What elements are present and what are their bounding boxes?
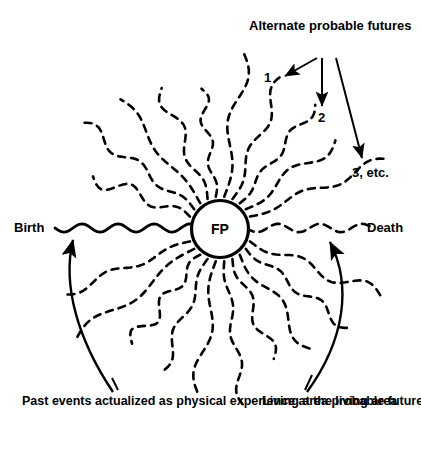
focus-point-label: FP	[191, 200, 249, 258]
arrow-to-future-3	[336, 58, 362, 158]
probable-future-ray	[82, 123, 195, 210]
diagram-canvas: Alternate probable futures 1 2 3, etc. B…	[0, 0, 421, 465]
probable-future-ray	[62, 241, 189, 294]
probable-future-ray	[232, 259, 276, 359]
death-future-line	[247, 224, 371, 232]
label-death: Death	[367, 220, 403, 235]
arrow-to-future-1	[285, 58, 317, 76]
caption-past-events: Past events actualized as physical exper…	[22, 394, 234, 409]
label-future-2: 2	[318, 110, 325, 125]
leader-past-events	[112, 378, 118, 390]
probable-future-ray	[240, 255, 312, 349]
probable-future-ray	[246, 249, 349, 328]
label-birth: Birth	[14, 220, 44, 235]
arc-past-events	[70, 240, 113, 392]
label-future-3: 3, etc.	[352, 165, 389, 180]
label-alternate-probable-futures: Alternate probable futures	[249, 18, 387, 33]
probable-future-ray	[250, 241, 380, 295]
probable-future-ray	[76, 249, 194, 340]
probable-future-ray	[159, 88, 207, 199]
birth-past-line	[55, 224, 194, 232]
label-future-1: 1	[264, 70, 271, 85]
caption-living-area: Living area probable future	[262, 394, 402, 409]
probable-future-ray	[93, 176, 190, 216]
probable-future-ray	[130, 255, 200, 344]
probable-future-ray	[240, 105, 315, 203]
